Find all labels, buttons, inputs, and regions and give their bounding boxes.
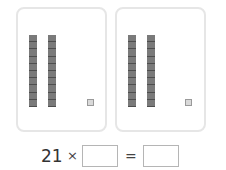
base-ten-card-2 — [115, 7, 206, 132]
tens-rod — [29, 35, 37, 107]
multiplicand: 21 — [41, 145, 63, 167]
tens-rod — [128, 35, 136, 107]
equation: 21 × = — [0, 145, 226, 167]
answer-box-multiplier[interactable] — [82, 145, 118, 167]
times-sign: × — [67, 145, 78, 167]
equals-sign: = — [125, 145, 137, 167]
ones-cube — [185, 99, 192, 106]
tens-rod — [48, 35, 56, 107]
answer-box-product[interactable] — [143, 145, 179, 167]
ones-cube — [87, 99, 94, 106]
base-ten-card-1 — [16, 7, 107, 132]
tens-rod — [147, 35, 155, 107]
